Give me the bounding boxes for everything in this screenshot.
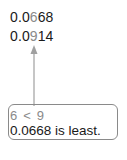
conclusion-text: 0.0668 is least. bbox=[10, 124, 101, 138]
number-suffix: 14 bbox=[38, 28, 54, 44]
number-prefix: 0.0 bbox=[10, 28, 30, 44]
number-suffix: 68 bbox=[38, 9, 54, 25]
number-0-0914: 0.0914 bbox=[10, 29, 53, 43]
number-0-0668: 0.0668 bbox=[10, 10, 53, 24]
compared-digit: 6 bbox=[30, 9, 38, 25]
comparison-operator: < bbox=[23, 108, 31, 123]
comparison-right: 9 bbox=[37, 108, 44, 123]
digit-comparison: 6<9 bbox=[10, 109, 50, 122]
arrow-up-icon bbox=[26, 44, 46, 106]
compared-digit: 9 bbox=[30, 28, 38, 44]
comparison-left: 6 bbox=[10, 108, 17, 123]
number-prefix: 0.0 bbox=[10, 9, 30, 25]
